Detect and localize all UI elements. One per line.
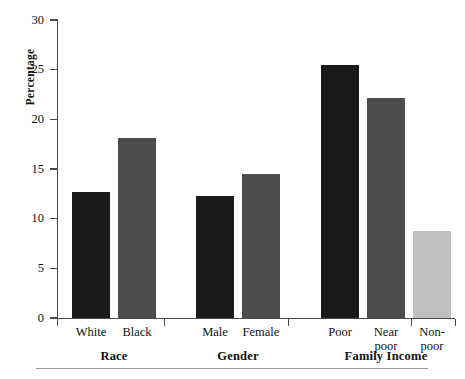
y-tick-mark [50,218,58,219]
y-tick-mark [50,119,58,120]
y-tick-label-wrap: 10 [14,212,44,224]
x-tick-mark [411,319,412,326]
group-label-race: Race [44,349,184,364]
y-tick-label: 25 [18,63,44,75]
x-tick-mark [164,319,165,326]
y-tick-label-wrap: 25 [14,63,44,75]
y-tick-label-wrap: 30 [14,14,44,26]
bar-black [118,138,156,318]
group-label-gender: Gender [168,349,308,364]
y-tick-mark [50,69,58,70]
y-tick-label: 15 [18,163,44,175]
x-axis-line [57,318,455,319]
bar-male [196,196,234,318]
category-label-black: Black [104,326,170,340]
y-tick-label: 0 [18,312,44,324]
x-tick-mark [455,319,456,326]
bar-poor [321,65,359,318]
y-tick-label-wrap: 0 [14,312,44,324]
category-label-line: Female [228,326,294,340]
bar-near-poor [367,98,405,318]
y-tick-label-wrap: 20 [14,113,44,125]
y-tick-label: 5 [18,262,44,274]
category-label-female: Female [228,326,294,340]
category-label-line: Non- [399,326,465,340]
y-tick-mark [50,268,58,269]
y-tick-label: 30 [18,14,44,26]
bar-white [72,192,110,318]
footer-divider [36,368,428,369]
y-tick-label: 20 [18,113,44,125]
group-label-family-income: Family Income [316,349,456,364]
x-tick-mark [288,319,289,326]
y-tick-label: 10 [18,212,44,224]
bar-chart-figure: Percentage 051015202530 WhiteBlackMaleFe… [0,0,465,379]
y-tick-mark [50,168,58,169]
y-tick-mark [50,19,58,20]
x-tick-mark [57,319,58,326]
y-tick-label-wrap: 15 [14,163,44,175]
category-label-line: Black [104,326,170,340]
bar-female [242,174,280,318]
bar-non-poor [413,231,451,318]
y-tick-label-wrap: 5 [14,262,44,274]
